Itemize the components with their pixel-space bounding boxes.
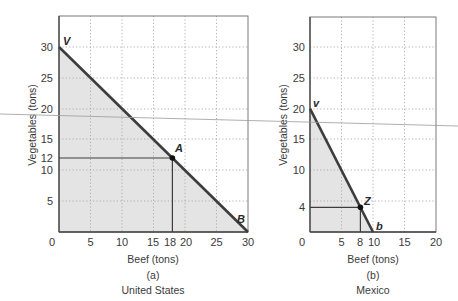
label-point-b: b [376, 220, 383, 232]
svg-text:0: 0 [49, 236, 55, 248]
svg-text:30: 30 [293, 41, 305, 53]
svg-text:20: 20 [293, 103, 305, 115]
y-axis-label-a: Vegetables (tons) [26, 84, 38, 166]
x-tick-labels-a: 0 5 10 15 18 20 25 30 [49, 236, 254, 248]
svg-text:30: 30 [41, 41, 53, 53]
panel-tag-b: (b) [367, 269, 380, 281]
svg-text:20: 20 [180, 236, 192, 248]
label-point-A: A [174, 142, 183, 154]
svg-text:5: 5 [87, 236, 93, 248]
svg-text:18: 18 [164, 236, 176, 248]
svg-text:15: 15 [398, 236, 410, 248]
country-label-a: United States [121, 284, 184, 296]
chart-mexico: v Z b 30 25 20 15 10 4 0 5 8 10 15 20 Ve… [277, 17, 442, 296]
svg-text:12: 12 [41, 152, 53, 164]
panel-tag-a: (a) [147, 269, 160, 281]
label-point-Z: Z [363, 195, 372, 207]
svg-text:15: 15 [293, 133, 305, 145]
x-tick-labels-b: 0 5 8 10 15 20 [299, 236, 442, 248]
svg-text:20: 20 [41, 103, 53, 115]
chart-united-states: V A B 30 25 20 15 12 10 5 0 5 10 15 18 2… [26, 16, 254, 296]
country-label-b: Mexico [356, 284, 389, 296]
svg-text:5: 5 [338, 236, 344, 248]
label-point-V: V [63, 35, 72, 47]
svg-text:15: 15 [147, 236, 159, 248]
svg-text:10: 10 [293, 164, 305, 176]
y-tick-labels-b: 30 25 20 15 10 4 [293, 41, 305, 213]
svg-text:25: 25 [293, 72, 305, 84]
svg-text:4: 4 [299, 201, 305, 213]
svg-text:25: 25 [41, 72, 53, 84]
svg-text:25: 25 [210, 236, 222, 248]
y-tick-labels-a: 30 25 20 15 12 10 5 [41, 41, 53, 207]
svg-text:30: 30 [242, 236, 254, 248]
ppf-figure: V A B 30 25 20 15 12 10 5 0 5 10 15 18 2… [0, 0, 458, 301]
label-point-v: v [313, 97, 320, 109]
svg-text:10: 10 [41, 164, 53, 176]
svg-text:20: 20 [430, 236, 442, 248]
x-axis-label-a: Beef (tons) [127, 253, 178, 265]
point-z-marker [358, 205, 364, 211]
svg-text:0: 0 [299, 236, 305, 248]
svg-text:5: 5 [47, 195, 53, 207]
svg-text:10: 10 [368, 236, 380, 248]
y-axis-label-b: Vegetables (tons) [277, 84, 289, 166]
svg-text:10: 10 [116, 236, 128, 248]
label-point-B: B [237, 213, 245, 225]
svg-text:8: 8 [357, 236, 363, 248]
x-axis-label-b: Beef (tons) [347, 253, 398, 265]
point-a-marker [170, 155, 176, 161]
svg-text:15: 15 [41, 133, 53, 145]
